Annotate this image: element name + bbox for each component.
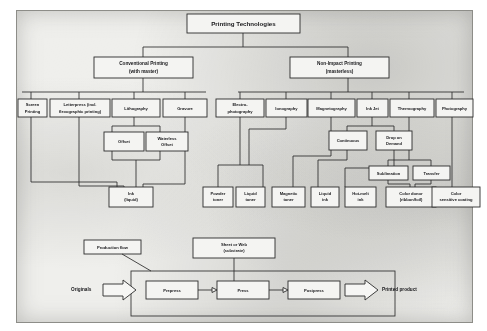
- arrow-prepress-press-icon: [212, 288, 217, 293]
- node-production-flow-label[interactable]: Production flow: [84, 240, 141, 254]
- magnetography-label: Magnetography: [316, 106, 347, 111]
- node-sublimation[interactable]: Sublimation: [369, 166, 408, 180]
- transfer-label: Transfer: [423, 171, 440, 176]
- node-letterpress[interactable]: Letterpress (incl. flexographic printing…: [50, 99, 110, 117]
- waterless-offset-line1: Waterless: [157, 136, 177, 141]
- arrow-press-postpress-icon: [283, 288, 288, 293]
- liquid-toner-line1: Liquid: [244, 191, 257, 196]
- photography-label: Photography: [442, 106, 468, 111]
- node-offset[interactable]: Offset: [104, 132, 144, 151]
- connector-conventional-bus: [22, 78, 206, 99]
- press-label: Press: [237, 288, 249, 293]
- node-hot-melt-ink[interactable]: Hot-melt ink: [345, 187, 376, 207]
- node-postpress[interactable]: Postpress: [288, 281, 340, 299]
- color-coating-line2: sensitive coating: [439, 197, 473, 202]
- sublimation-label: Sublimation: [377, 171, 401, 176]
- node-magnetic-toner[interactable]: Magnetic toner: [272, 187, 305, 207]
- ink-liquid-line1: Ink: [128, 191, 135, 196]
- conventional-line1: Conventional Printing: [119, 61, 168, 66]
- printed-product-arrow-icon: [345, 280, 378, 300]
- node-inkjet[interactable]: Ink Jet: [357, 99, 388, 117]
- node-lithography[interactable]: Lithography: [112, 99, 160, 117]
- node-ionography[interactable]: Ionography: [266, 99, 307, 117]
- node-nonimpact-printing[interactable]: Non-Impact Printing (masterless): [290, 57, 389, 78]
- color-donor-line1: Color donor: [399, 191, 423, 196]
- node-color-sensitive-coating[interactable]: Color sensitive coating: [432, 187, 480, 207]
- connector-conventional-to-ink: [31, 117, 185, 187]
- postpress-label: Postpress: [304, 288, 325, 293]
- substrate-line2: (substrate): [223, 248, 245, 253]
- node-thermography[interactable]: Thermography: [390, 99, 434, 117]
- node-powder-toner[interactable]: Powder toner: [203, 187, 233, 207]
- electrophotography-line1: Electro-: [232, 102, 248, 107]
- magnetic-toner-line1: Magnetic: [280, 191, 298, 196]
- electrophotography-line2: photography: [227, 109, 253, 114]
- ink-liquid-line2: (liquid): [124, 197, 138, 202]
- root-label: Printing Technologies: [211, 20, 276, 27]
- drop-on-demand-line1: Drop on: [386, 135, 402, 140]
- conventional-line2: (with master): [129, 69, 159, 74]
- letterpress-line1: Letterpress (incl.: [64, 102, 97, 107]
- thermography-label: Thermography: [398, 106, 427, 111]
- powder-toner-line1: Powder: [211, 191, 226, 196]
- liquid-toner-line2: toner: [245, 197, 256, 202]
- node-liquid-ink[interactable]: Liquid ink: [311, 187, 339, 207]
- connector-root-to-branches: [143, 33, 348, 57]
- screen-printing-line1: Screen: [26, 102, 40, 107]
- node-electrophotography[interactable]: Electro- photography: [216, 99, 264, 117]
- nonimpact-line1: Non-Impact Printing: [317, 61, 362, 66]
- hot-melt-ink-line2: ink: [358, 197, 365, 202]
- printing-technologies-diagram: Printing Technologies Conventional Print…: [0, 0, 487, 331]
- node-continuous[interactable]: Continuous: [329, 131, 367, 150]
- ionography-label: Ionography: [275, 106, 298, 111]
- node-transfer[interactable]: Transfer: [413, 166, 450, 180]
- waterless-offset-line2: Offset: [161, 142, 173, 147]
- node-color-donor[interactable]: Color donor (ribbon/foil): [386, 187, 436, 207]
- inkjet-label: Ink Jet: [366, 106, 380, 111]
- production-flow-text: Production flow: [97, 245, 129, 250]
- magnetic-toner-line2: toner: [283, 197, 294, 202]
- printed-product-label: Printed product: [382, 287, 417, 292]
- node-conventional-printing[interactable]: Conventional Printing (with master): [94, 57, 193, 78]
- hot-melt-ink-line1: Hot-melt: [352, 191, 369, 196]
- prepress-label: Prepress: [163, 288, 181, 293]
- node-printing-technologies[interactable]: Printing Technologies: [187, 14, 300, 33]
- liquid-ink-line1: Liquid: [319, 191, 332, 196]
- letterpress-line2: flexographic printing): [59, 109, 102, 114]
- lithography-label: Lithography: [124, 106, 148, 111]
- screen-printing-line2: Printing: [25, 109, 41, 114]
- node-press[interactable]: Press: [217, 281, 269, 299]
- gravure-label: Gravure: [177, 106, 193, 111]
- originals-label: Originals: [71, 287, 92, 292]
- node-waterless-offset[interactable]: Waterless Offset: [146, 132, 188, 151]
- liquid-ink-line2: ink: [322, 197, 329, 202]
- continuous-label: Continuous: [337, 138, 360, 143]
- node-drop-on-demand[interactable]: Drop on Demand: [376, 131, 412, 150]
- substrate-line1: Sheet or Web: [221, 242, 248, 247]
- diagram-canvas: Printing Technologies Conventional Print…: [0, 0, 487, 331]
- node-screen-printing[interactable]: Screen Printing: [18, 99, 47, 117]
- node-liquid-toner[interactable]: Liquid toner: [236, 187, 265, 207]
- node-photography[interactable]: Photography: [436, 99, 473, 117]
- connector-nonimpact-bus: [238, 78, 464, 99]
- node-ink-liquid[interactable]: Ink (liquid): [109, 187, 153, 207]
- nonimpact-line2: (masterless): [326, 69, 354, 74]
- color-coating-line1: Color: [451, 191, 462, 196]
- node-magnetography[interactable]: Magnetography: [308, 99, 355, 117]
- node-gravure[interactable]: Gravure: [163, 99, 207, 117]
- leader-production-flow: [122, 254, 151, 271]
- powder-toner-line2: toner: [213, 197, 224, 202]
- color-donor-line2: (ribbon/foil): [400, 197, 423, 202]
- drop-on-demand-line2: Demand: [386, 141, 403, 146]
- node-substrate[interactable]: Sheet or Web (substrate): [193, 238, 275, 258]
- offset-label: Offset: [118, 139, 130, 144]
- node-prepress[interactable]: Prepress: [146, 281, 198, 299]
